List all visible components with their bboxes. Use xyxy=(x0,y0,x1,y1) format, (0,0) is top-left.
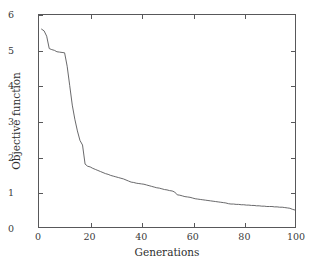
x-tick-label-80: 80 xyxy=(229,232,259,242)
x-tick-label-0: 0 xyxy=(23,232,53,242)
x-tick-label-20: 20 xyxy=(75,232,105,242)
x-tick-label-40: 40 xyxy=(126,232,156,242)
plot-area xyxy=(38,14,296,228)
x-axis-title: Generations xyxy=(38,246,296,259)
x-tick-label-60: 60 xyxy=(178,232,208,242)
objective-function-curve xyxy=(39,15,295,227)
x-tick-label-100: 100 xyxy=(281,232,311,242)
figure-canvas: 6 5 4 3 2 1 0 0 20 40 60 80 100 Objectiv… xyxy=(0,0,313,271)
y-axis-title: Objective function xyxy=(9,14,23,228)
